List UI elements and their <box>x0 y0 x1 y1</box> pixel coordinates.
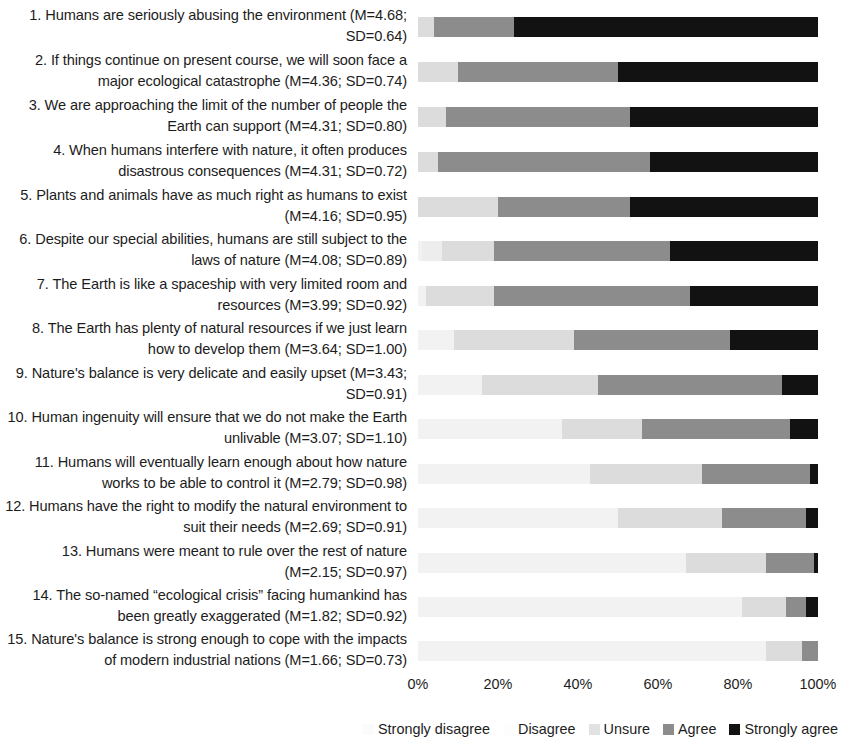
bar-segment-a <box>494 286 690 306</box>
bar-segment-sd <box>418 419 562 439</box>
bar-row <box>418 17 818 37</box>
bar-segment-u <box>686 553 766 573</box>
bar-segment-a <box>598 375 782 395</box>
bar-segment-sd <box>418 597 742 617</box>
legend-item[interactable]: Unsure <box>589 721 650 737</box>
bar-segment-d <box>422 241 442 261</box>
category-label: 6. Despite our special abilities, humans… <box>2 229 407 272</box>
bar-segment-sa <box>630 107 818 127</box>
category-label: 9. Nature's balance is very delicate and… <box>2 363 407 406</box>
legend-swatch-u-icon <box>589 724 600 735</box>
bar-segment-sd <box>418 641 766 661</box>
plot-area <box>418 0 818 672</box>
bar-segment-u <box>482 375 598 395</box>
category-label-column: 1. Humans are seriously abusing the envi… <box>0 0 412 672</box>
bar-segment-u <box>418 62 458 82</box>
bar-segment-u <box>426 286 494 306</box>
bar-row <box>418 241 818 261</box>
bar-segment-u <box>442 241 494 261</box>
legend-swatch-sd-icon <box>363 724 374 735</box>
bar-row <box>418 330 818 350</box>
legend-label: Strongly agree <box>744 721 838 737</box>
bar-segment-sa <box>814 553 818 573</box>
bar-segment-sd <box>418 375 482 395</box>
bar-segment-sa <box>670 241 818 261</box>
legend-label: Disagree <box>518 721 576 737</box>
x-axis-tick: 0% <box>383 676 453 692</box>
bar-segment-a <box>574 330 730 350</box>
legend-item[interactable]: Agree <box>663 721 716 737</box>
bar-segment-a <box>434 17 514 37</box>
category-label: 13. Humans were meant to rule over the r… <box>2 541 407 584</box>
bar-segment-a <box>766 553 814 573</box>
legend-swatch-d-icon <box>503 724 514 735</box>
bar-segment-sa <box>690 286 818 306</box>
bar-segment-a <box>498 197 630 217</box>
bar-segment-a <box>642 419 790 439</box>
legend-item[interactable]: Strongly agree <box>729 721 838 737</box>
legend-label: Agree <box>678 721 716 737</box>
category-label: 2. If things continue on present course,… <box>2 50 407 93</box>
bar-segment-a <box>446 107 630 127</box>
bar-segment-sa <box>810 464 818 484</box>
bar-segment-sa <box>790 419 818 439</box>
bar-segment-a <box>494 241 670 261</box>
x-axis-tick: 80% <box>703 676 773 692</box>
bar-segment-a <box>722 508 806 528</box>
bar-segment-u <box>418 107 446 127</box>
bar-segment-u <box>562 419 642 439</box>
bar-segment-a <box>786 597 806 617</box>
bar-row <box>418 152 818 172</box>
bar-segment-u <box>418 152 438 172</box>
category-label: 14. The so-named “ecological crisis” fac… <box>2 585 407 628</box>
x-axis: 0%20%40%60%80%100% <box>0 676 846 700</box>
bar-row <box>418 464 818 484</box>
bar-segment-sd <box>418 330 454 350</box>
bar-segment-a <box>458 62 618 82</box>
bar-segment-sa <box>782 375 818 395</box>
bar-segment-a <box>438 152 650 172</box>
bar-segment-u <box>454 330 574 350</box>
bar-segment-a <box>802 641 818 661</box>
category-label: 15. Nature's balance is strong enough to… <box>2 629 407 672</box>
bar-row <box>418 553 818 573</box>
legend-item[interactable]: Strongly disagree <box>363 721 490 737</box>
bar-segment-sd <box>418 286 426 306</box>
x-axis-tick: 100% <box>783 676 846 692</box>
legend-swatch-a-icon <box>663 724 674 735</box>
category-label: 1. Humans are seriously abusing the envi… <box>2 5 407 48</box>
legend-swatch-sa-icon <box>729 724 740 735</box>
bar-segment-u <box>766 641 802 661</box>
bar-row <box>418 286 818 306</box>
bar-row <box>418 107 818 127</box>
chart-legend: Strongly disagreeDisagreeUnsureAgreeStro… <box>0 716 846 742</box>
legend-item[interactable]: Disagree <box>503 721 576 737</box>
category-label: 8. The Earth has plenty of natural resou… <box>2 318 407 361</box>
bar-segment-sa <box>806 597 818 617</box>
x-axis-tick: 60% <box>623 676 693 692</box>
bar-row <box>418 419 818 439</box>
bar-row <box>418 197 818 217</box>
bar-segment-sa <box>650 152 818 172</box>
bar-segment-sa <box>630 197 818 217</box>
bar-row <box>418 375 818 395</box>
bar-segment-sa <box>514 17 818 37</box>
bar-segment-sd <box>418 464 590 484</box>
bar-row <box>418 641 818 661</box>
category-label: 4. When humans interfere with nature, it… <box>2 140 407 183</box>
bar-row <box>418 62 818 82</box>
bar-segment-u <box>418 197 498 217</box>
x-axis-tick: 20% <box>463 676 533 692</box>
bar-segment-u <box>742 597 786 617</box>
nep-stacked-bar-chart: 1. Humans are seriously abusing the envi… <box>0 0 846 746</box>
bar-segment-u <box>418 17 434 37</box>
bar-segment-sd <box>418 508 618 528</box>
category-label: 7. The Earth is like a spaceship with ve… <box>2 274 407 317</box>
category-label: 12. Humans have the right to modify the … <box>2 496 407 539</box>
x-axis-tick: 40% <box>543 676 613 692</box>
category-label: 3. We are approaching the limit of the n… <box>2 95 407 138</box>
bar-row <box>418 508 818 528</box>
legend-label: Unsure <box>604 721 650 737</box>
bar-segment-sa <box>618 62 818 82</box>
bar-segment-sa <box>806 508 818 528</box>
